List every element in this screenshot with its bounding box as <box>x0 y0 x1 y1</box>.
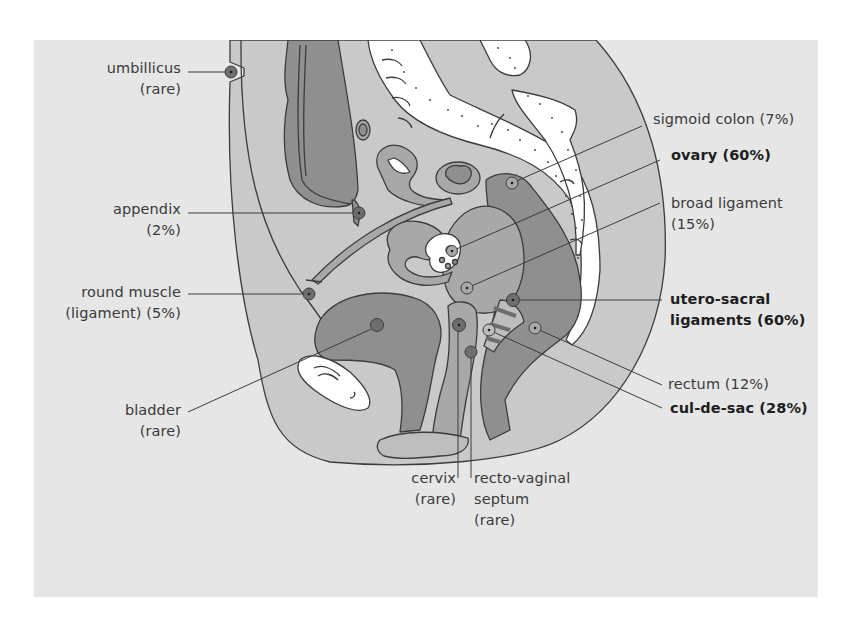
marker-bladder <box>371 319 384 332</box>
label-cervix: cervix (rare) <box>411 468 456 510</box>
label-umbilicus-name: umbillicus <box>107 58 181 79</box>
label-recto-vaginal: recto-vaginal septum (rare) <box>474 468 570 531</box>
label-sigmoid-colon-text: sigmoid colon (7%) <box>653 109 794 130</box>
label-utero-sacral: utero-sacral ligaments (60%) <box>670 289 805 331</box>
label-bladder-name: bladder <box>125 400 181 421</box>
label-cul-de-sac: cul-de-sac (28%) <box>670 398 808 419</box>
label-cervix-freq: (rare) <box>411 489 456 510</box>
label-appendix-name: appendix <box>113 199 181 220</box>
label-utero-sacral-freq: ligaments (60%) <box>670 310 805 331</box>
label-appendix-freq: (2%) <box>113 220 181 241</box>
label-cul-de-sac-text: cul-de-sac (28%) <box>670 398 808 419</box>
label-recto-vaginal-freq: (rare) <box>474 510 570 531</box>
label-umbilicus: umbillicus (rare) <box>107 58 181 100</box>
label-recto-vaginal-name: recto-vaginal <box>474 468 570 489</box>
label-bladder: bladder (rare) <box>125 400 181 442</box>
label-rectum: rectum (12%) <box>668 374 769 395</box>
label-ovary: ovary (60%) <box>671 145 771 166</box>
label-broad-ligament: broad ligament (15%) <box>671 193 783 235</box>
label-utero-sacral-name: utero-sacral <box>670 289 805 310</box>
label-round-muscle-freq: (ligament) (5%) <box>65 303 181 324</box>
label-ovary-text: ovary (60%) <box>671 145 771 166</box>
label-round-muscle: round muscle (ligament) (5%) <box>65 282 181 324</box>
marker-recto-vaginal <box>465 346 477 358</box>
label-cervix-name: cervix <box>411 468 456 489</box>
label-recto-vaginal-name2: septum <box>474 489 570 510</box>
label-bladder-freq: (rare) <box>125 421 181 442</box>
label-round-muscle-name: round muscle <box>65 282 181 303</box>
label-rectum-text: rectum (12%) <box>668 374 769 395</box>
label-broad-ligament-name: broad ligament <box>671 193 783 214</box>
label-sigmoid-colon: sigmoid colon (7%) <box>653 109 794 130</box>
label-appendix: appendix (2%) <box>113 199 181 241</box>
label-umbilicus-freq: (rare) <box>107 79 181 100</box>
label-broad-ligament-freq: (15%) <box>671 214 783 235</box>
